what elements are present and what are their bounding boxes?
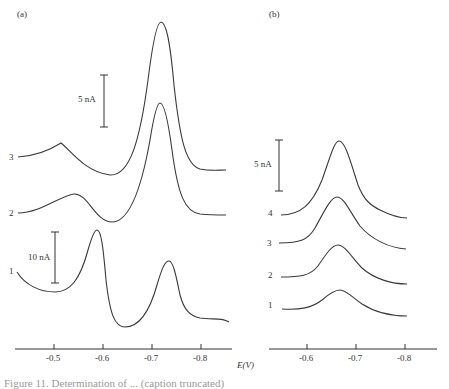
- curve-label-a-3: 3: [9, 152, 14, 162]
- curve-a-2: [18, 103, 226, 222]
- tick-label-a-2: -0.7: [144, 353, 159, 363]
- panel-a-label: (a): [17, 9, 27, 19]
- curve-label-a-2: 2: [9, 208, 14, 218]
- curve-label-b-4: 4: [268, 208, 273, 218]
- x-axis-b: [269, 344, 437, 349]
- curve-b-4: [281, 141, 407, 218]
- figure-caption: Figure 11. Determination of ... (caption…: [4, 377, 224, 389]
- panel-b-label: (b): [269, 9, 280, 19]
- curve-label-b-2: 2: [268, 270, 273, 280]
- tick-label-b-1: -0.7: [348, 353, 363, 363]
- curve-label-b-1: 1: [268, 300, 273, 310]
- x-axis-title: E(V): [236, 360, 254, 370]
- scale-bar-5na-b: [275, 140, 283, 191]
- scale-label-10na: 10 nA: [28, 252, 51, 262]
- tick-label-a-0: -0.5: [46, 353, 61, 363]
- curve-b-1: [282, 290, 407, 316]
- scale-bar-5na-a: [100, 75, 108, 127]
- scale-bar-10na: [51, 232, 59, 283]
- curve-a-3: [18, 22, 226, 175]
- curve-b-2: [281, 245, 407, 284]
- curve-b-3: [279, 197, 406, 249]
- scale-label-5na-b: 5 nA: [254, 159, 272, 169]
- scale-label-5na-a: 5 nA: [78, 94, 96, 104]
- curve-label-b-3: 3: [267, 238, 272, 248]
- curve-label-a-1: 1: [9, 266, 14, 276]
- tick-label-b-0: -0.6: [299, 353, 314, 363]
- tick-label-b-2: -0.8: [397, 353, 412, 363]
- x-axis-a: [15, 344, 232, 349]
- tick-label-a-1: -0.6: [95, 353, 110, 363]
- curve-a-1: [17, 230, 229, 327]
- tick-label-a-3: -0.8: [193, 353, 208, 363]
